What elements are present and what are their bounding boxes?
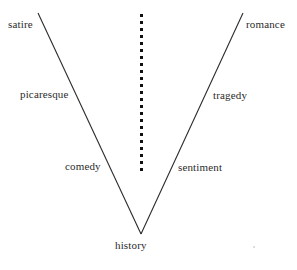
left-diagonal-line	[38, 13, 141, 234]
label-tragedy: tragedy	[213, 89, 247, 101]
right-diagonal-line	[141, 13, 243, 234]
label-satire: satire	[8, 18, 33, 30]
label-comedy: comedy	[65, 160, 101, 172]
diagram-vector-layer	[0, 0, 297, 270]
genre-spectrum-diagram: satire romance picaresque tragedy comedy…	[0, 0, 297, 270]
label-picaresque: picaresque	[20, 88, 69, 100]
label-sentiment: sentiment	[178, 161, 222, 173]
scan-artifact-speck	[253, 246, 255, 248]
label-romance: romance	[246, 18, 285, 30]
label-history: history	[115, 239, 147, 251]
